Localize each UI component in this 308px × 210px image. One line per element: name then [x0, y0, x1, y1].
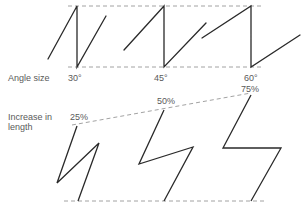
angle-size-label: Angle size [8, 73, 50, 83]
length-zigzags [57, 95, 281, 201]
angle-45-label: 45° [154, 73, 168, 83]
angle-zigzags [48, 6, 300, 67]
increase-75-label: 75% [241, 84, 259, 94]
zigzag-45 [124, 6, 206, 67]
angle-60-label: 60° [244, 73, 258, 83]
zigzag-25pct [57, 126, 99, 201]
increase-label-line2: length [8, 122, 33, 132]
increase-50-label: 50% [157, 96, 175, 106]
increase-25-label: 25% [70, 112, 88, 122]
zigzag-30 [48, 6, 106, 67]
zigzag-75pct [223, 95, 281, 201]
increase-label-line1: Increase in [8, 112, 52, 122]
angle-30-label: 30° [68, 73, 82, 83]
top-guides [68, 6, 262, 67]
diagram-canvas [0, 0, 308, 210]
zigzag-60 [202, 6, 300, 67]
zigzag-50pct [139, 110, 193, 201]
